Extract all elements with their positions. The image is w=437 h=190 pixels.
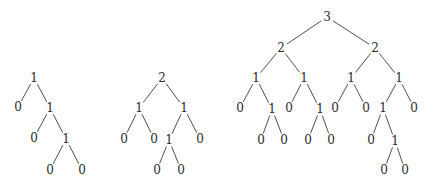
tree-node-label: 0: [367, 133, 375, 147]
tree-edge: [379, 54, 394, 73]
tree-edge: [307, 84, 317, 103]
tree-node-label: 1: [379, 101, 387, 115]
tree-edge: [261, 53, 277, 72]
tree-node-label: 1: [252, 71, 260, 85]
tree-node-label: 0: [30, 131, 38, 145]
tree-node-label: 1: [391, 134, 399, 148]
tree-node-label: 3: [323, 10, 331, 24]
tree-node-label: 1: [135, 101, 143, 115]
tree-edge: [172, 114, 181, 133]
tree-node-label: 2: [158, 71, 166, 85]
tree-node-label: 0: [236, 101, 244, 115]
tree-node-label: 0: [362, 101, 370, 115]
tree-edge: [397, 148, 402, 164]
tree-node-label: 0: [177, 163, 185, 177]
tree-node-label: 0: [280, 133, 288, 147]
tree-edge: [386, 84, 395, 102]
tree-node-label: 1: [268, 102, 276, 116]
tree-3: 32211110101001000000100: [236, 10, 418, 177]
tree-node-label: 1: [62, 132, 70, 146]
tree-edge: [285, 54, 299, 73]
tree-edge: [187, 114, 197, 133]
tree-edge: [275, 116, 282, 134]
trees-group: 101010021100100032211110101001000000100: [14, 10, 418, 177]
tree-edge: [172, 147, 179, 164]
tree-node-label: 0: [46, 163, 54, 177]
tree-node-label: 2: [277, 41, 285, 55]
tree-edge: [127, 114, 136, 132]
tree-node-label: 0: [285, 101, 293, 115]
tree-node-label: 0: [257, 133, 265, 147]
tree-edge: [143, 84, 157, 103]
tree-edge: [53, 114, 63, 133]
tree-edge: [333, 21, 369, 44]
tree-node-label: 2: [371, 41, 379, 55]
tree-node-label: 0: [150, 132, 158, 146]
tree-node-label: 0: [196, 132, 204, 146]
tree-node-label: 1: [180, 101, 188, 115]
tree-edge: [37, 114, 46, 132]
tree-edge: [37, 84, 46, 102]
tree-edge: [287, 21, 321, 44]
tree-edge: [21, 84, 30, 101]
tree-node-label: 1: [46, 101, 54, 115]
tree-node-label: 0: [401, 163, 409, 177]
tree-edge: [142, 114, 151, 132]
tree-2: 211001000: [120, 71, 204, 177]
tree-edge: [53, 145, 63, 164]
tree-edge: [160, 147, 167, 164]
tree-edge: [387, 148, 393, 164]
tree-edge: [338, 84, 347, 102]
tree-edge: [243, 84, 252, 102]
tree-node-label: 1: [30, 71, 38, 85]
tree-node-label: 1: [316, 102, 324, 116]
tree-node-label: 1: [300, 71, 308, 85]
tree-edge: [385, 115, 392, 135]
tree-edge: [166, 84, 180, 103]
tree-node-label: 0: [120, 132, 128, 146]
tree-diagrams-canvas: 101010021100100032211110101001000000100: [0, 0, 437, 190]
tree-1: 1010100: [14, 71, 86, 177]
tree-node-label: 1: [395, 71, 403, 85]
tree-edge: [402, 84, 411, 101]
tree-node-label: 0: [153, 163, 161, 177]
tree-node-label: 0: [14, 100, 22, 114]
tree-edge: [322, 116, 328, 134]
tree-edge: [259, 84, 269, 103]
tree-node-label: 0: [304, 133, 312, 147]
tree-edge: [311, 116, 318, 134]
tree-edge: [354, 84, 363, 101]
tree-edge: [292, 84, 301, 101]
tree-edge: [355, 54, 370, 73]
tree-node-label: 0: [78, 163, 86, 177]
tree-node-label: 0: [331, 101, 339, 115]
tree-node-label: 1: [165, 133, 173, 147]
tree-node-label: 1: [347, 71, 355, 85]
tree-edge: [69, 145, 79, 164]
tree-node-label: 0: [410, 101, 418, 115]
tree-edge: [374, 115, 381, 134]
tree-edge: [263, 116, 269, 134]
tree-node-label: 0: [327, 133, 335, 147]
tree-node-label: 0: [380, 163, 388, 177]
